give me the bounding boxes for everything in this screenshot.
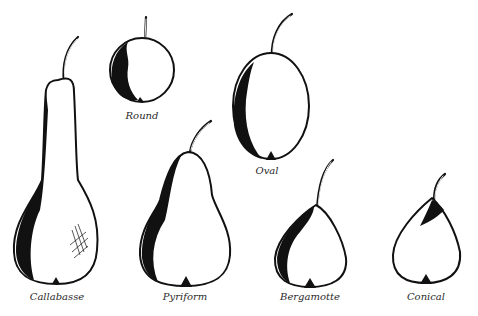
bergamotte-pear-illustration xyxy=(275,160,346,288)
label-oval: Oval xyxy=(255,165,278,176)
label-pyriform: Pyriform xyxy=(163,291,207,302)
callabasse-pear-illustration xyxy=(14,37,98,284)
pear-shapes-diagram xyxy=(0,0,478,316)
label-conical: Conical xyxy=(407,291,445,302)
oval-pear-illustration xyxy=(233,14,309,160)
conical-pear-illustration xyxy=(393,174,460,284)
round-pear-illustration xyxy=(110,17,174,102)
label-round: Round xyxy=(126,110,159,121)
label-callabasse: Callabasse xyxy=(30,291,85,302)
pyriform-pear-illustration xyxy=(140,121,230,287)
label-bergamotte: Bergamotte xyxy=(280,291,340,302)
